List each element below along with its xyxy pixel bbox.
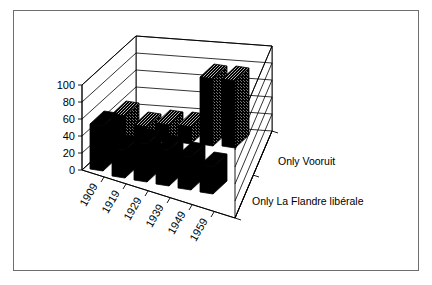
y-tick-label-20: 20 <box>63 147 75 159</box>
bar-front <box>134 142 147 182</box>
series-tick-flandre <box>253 175 259 177</box>
series-tick-end <box>235 218 241 220</box>
cat-tick-1929 <box>145 191 148 196</box>
category-label-1919: 1919 <box>99 188 122 215</box>
category-label-1959: 1959 <box>187 216 210 243</box>
category-label-1929: 1929 <box>121 195 144 222</box>
cat-tick-1949 <box>189 205 192 210</box>
bar-front <box>178 155 191 190</box>
bar-side <box>235 68 249 148</box>
bar-front <box>200 165 213 194</box>
bar-front <box>112 148 125 178</box>
cat-tick-1919 <box>123 184 126 189</box>
cat-tick-1959 <box>211 212 214 217</box>
bar-front <box>90 124 103 171</box>
y-tick-labels: 100 80 60 40 20 0 <box>57 79 75 176</box>
category-label-1939: 1939 <box>143 202 166 229</box>
y-tick-label-100: 100 <box>57 79 75 91</box>
bar-front <box>200 77 213 146</box>
3d-bar-chart: 100 80 60 40 20 0 1909 1919 1929 1939 19… <box>0 0 432 285</box>
cat-tick-1939 <box>167 198 170 203</box>
figure-root: 100 80 60 40 20 0 1909 1919 1929 1939 19… <box>0 0 432 285</box>
y-tick-label-40: 40 <box>63 130 75 142</box>
y-axis <box>78 85 82 170</box>
series-label-flandre: Only La Flandre libérale <box>252 195 364 207</box>
y-tick-label-60: 60 <box>63 113 75 125</box>
cat-tick-1909 <box>101 177 104 182</box>
bar-front <box>222 79 235 148</box>
series-labels: Only Vooruit Only La Flandre libérale <box>252 155 364 207</box>
category-label-1949: 1949 <box>165 209 188 236</box>
series-tick-vooruit <box>272 131 278 133</box>
bar-front <box>156 148 169 186</box>
y-tick-label-80: 80 <box>63 96 75 108</box>
bar-vooruit-1959[interactable] <box>222 66 249 148</box>
series-label-vooruit: Only Vooruit <box>278 155 335 167</box>
category-label-1909: 1909 <box>77 181 100 208</box>
y-tick-label-0: 0 <box>69 164 75 176</box>
